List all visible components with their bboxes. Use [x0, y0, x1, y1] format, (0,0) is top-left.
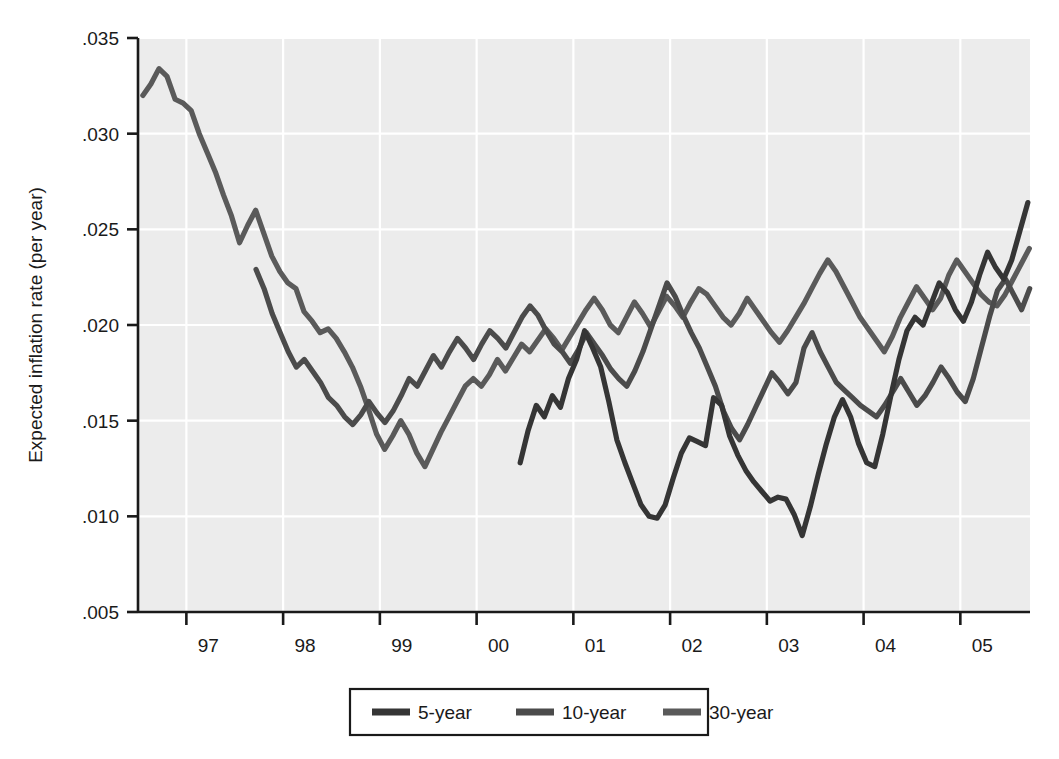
x-tick-label: 98	[295, 635, 316, 656]
y-tick-label: .020	[82, 315, 119, 336]
x-tick-label: 03	[778, 635, 799, 656]
x-tick-label: 02	[682, 635, 703, 656]
x-tick-label: 01	[585, 635, 606, 656]
y-tick-label: .030	[82, 124, 119, 145]
legend-label-30-year: 30-year	[709, 702, 774, 723]
x-tick-label: 97	[198, 635, 219, 656]
x-tick-label: 00	[488, 635, 509, 656]
expected-inflation-rate-line-chart: .035.030.025.020.015.010.005 97989900010…	[0, 0, 1059, 759]
legend-label-10-year: 10-year	[562, 702, 627, 723]
x-tick-label: 05	[972, 635, 993, 656]
x-tick-label: 04	[875, 635, 897, 656]
y-tick-label: .005	[82, 602, 119, 623]
y-tick-label: .025	[82, 219, 119, 240]
y-tick-label: .010	[82, 506, 119, 527]
y-axis-title: Expected inflation rate (per year)	[25, 187, 46, 463]
legend-label-5-year: 5-year	[418, 702, 473, 723]
y-tick-label: .015	[82, 411, 119, 432]
legend-items: 5-year10-year30-year	[372, 702, 774, 723]
x-tick-label: 99	[391, 635, 412, 656]
chart-figure: .035.030.025.020.015.010.005 97989900010…	[0, 0, 1059, 759]
y-tick-label: .035	[82, 28, 119, 49]
